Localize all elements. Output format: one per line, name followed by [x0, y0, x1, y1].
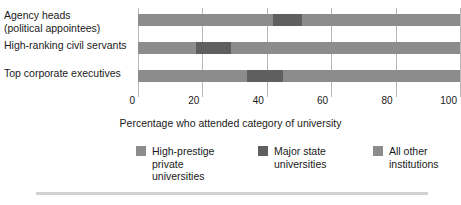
- chart-figure: Agency heads (political appointees) High…: [0, 0, 461, 205]
- bar-segment: [231, 42, 460, 54]
- legend-label-line: private: [152, 158, 214, 171]
- x-tick-label: 20: [188, 95, 202, 107]
- legend-item-all-other: All other institutions: [373, 145, 461, 170]
- category-axis-labels: Agency heads (political appointees) High…: [6, 8, 134, 92]
- x-tick-label: 100: [440, 95, 460, 107]
- legend-label-line: institutions: [389, 158, 439, 171]
- x-tick-mark: [396, 92, 397, 97]
- bar-segment: [138, 42, 196, 54]
- category-label-line: (political appointees): [4, 22, 134, 35]
- plot-area: [138, 8, 460, 92]
- bar-segment: [273, 14, 302, 26]
- x-tick-label: 60: [317, 95, 331, 107]
- bar-row: [138, 70, 460, 82]
- chart-legend: High-prestige private universities Major…: [136, 145, 456, 187]
- bar-segment: [138, 14, 273, 26]
- legend-label-line: All other: [389, 145, 439, 158]
- x-axis-title: Percentage who attended category of univ…: [0, 117, 461, 129]
- legend-label-line: High-prestige: [152, 145, 214, 158]
- x-tick-mark: [202, 92, 203, 97]
- x-tick-mark: [331, 92, 332, 97]
- legend-label: High-prestige private universities: [152, 145, 214, 183]
- legend-item-major-state: Major state universities: [258, 145, 358, 170]
- bar-segment: [302, 14, 460, 26]
- bar-row: [138, 42, 460, 54]
- x-axis: 020406080100: [138, 92, 460, 108]
- bar-segment: [196, 42, 231, 54]
- legend-label: All other institutions: [389, 145, 439, 170]
- category-label-corporate-executives: Top corporate executives: [4, 67, 134, 80]
- x-tick-mark: [267, 92, 268, 97]
- legend-label: Major state universities: [274, 145, 327, 170]
- bar-segment: [138, 70, 247, 82]
- legend-label-line: universities: [152, 170, 214, 183]
- x-tick-label: 40: [253, 95, 267, 107]
- bottom-divider: [36, 192, 428, 195]
- bar-row: [138, 14, 460, 26]
- category-label-civil-servants: High-ranking civil servants: [4, 39, 134, 52]
- legend-item-high-prestige: High-prestige private universities: [136, 145, 246, 183]
- bar-segment: [283, 70, 460, 82]
- bar-segment: [247, 70, 282, 82]
- category-label-line: Top corporate executives: [4, 67, 134, 80]
- legend-swatch-icon: [136, 146, 146, 156]
- legend-swatch-icon: [373, 146, 383, 156]
- category-label-line: High-ranking civil servants: [4, 39, 134, 52]
- category-label-agency-heads: Agency heads (political appointees): [4, 9, 134, 34]
- legend-label-line: universities: [274, 158, 327, 171]
- legend-label-line: Major state: [274, 145, 327, 158]
- x-tick-label: 80: [381, 95, 395, 107]
- x-tick-mark: [138, 92, 139, 97]
- x-tick-label: 0: [129, 95, 138, 107]
- category-label-line: Agency heads: [4, 9, 134, 22]
- legend-swatch-icon: [258, 146, 268, 156]
